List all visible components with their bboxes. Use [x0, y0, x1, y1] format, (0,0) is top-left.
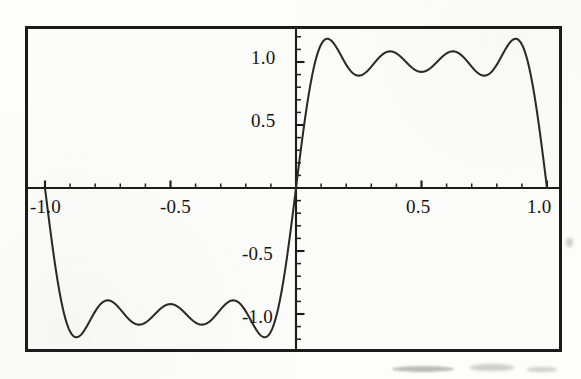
x-tick-label-pos-half: 0.5 — [406, 196, 430, 218]
y-tick-label-neg-one: -1.0 — [242, 306, 273, 328]
y-tick-label-pos-one: 1.0 — [251, 47, 275, 69]
y-tick-label-pos-half: 0.5 — [251, 110, 275, 132]
figure-root: -1.0 -0.5 0.5 1.0 1.0 0.5 -0.5 -1.0 — [0, 0, 581, 379]
x-tick-label-pos-one: 1.0 — [527, 196, 551, 218]
x-tick-label-neg-half: -0.5 — [160, 196, 191, 218]
x-tick-label-neg-one: -1.0 — [30, 196, 61, 218]
y-tick-label-neg-half: -0.5 — [242, 243, 273, 265]
plot-canvas — [0, 0, 581, 379]
